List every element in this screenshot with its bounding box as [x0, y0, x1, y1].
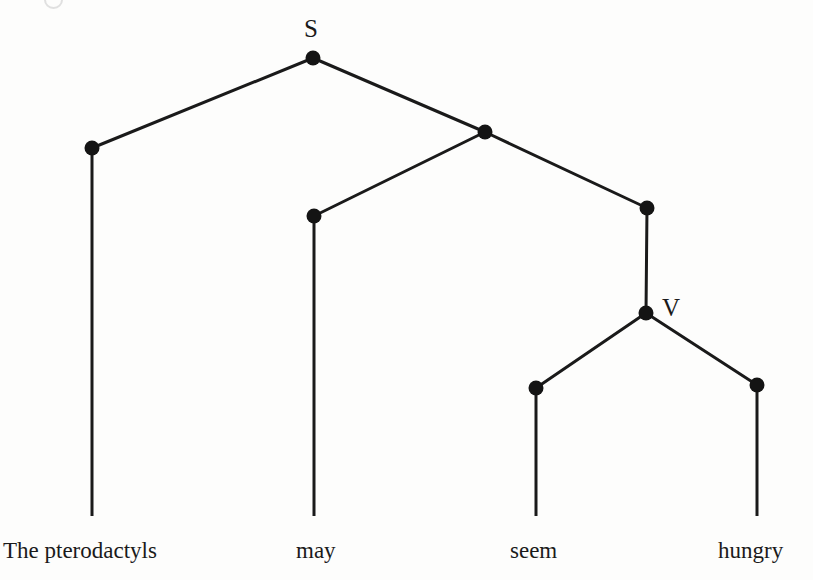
edge-vp-to-verb: [646, 208, 647, 313]
root-node-s[interactable]: [306, 51, 321, 66]
edges-layer: [92, 58, 757, 388]
edge-root-to-subject: [92, 58, 313, 148]
leaf-word-hungry: hungry: [718, 539, 783, 562]
verb-node-v[interactable]: [639, 306, 654, 321]
edge-verb-to-hungry: [646, 313, 757, 385]
node-label-v: V: [662, 295, 680, 320]
node-label-s: S: [304, 16, 318, 41]
nodes-layer: [85, 51, 765, 396]
predicate-node[interactable]: [478, 125, 493, 140]
leaf-word-may: may: [296, 539, 336, 562]
edge-root-to-predicate: [313, 58, 485, 132]
hungry-node[interactable]: [750, 378, 765, 393]
auxiliary-node[interactable]: [307, 209, 322, 224]
tree-graphics: [0, 0, 813, 580]
syntax-tree-diagram: SV The pterodactylsmayseemhungry: [0, 0, 813, 580]
stems-layer: [92, 148, 757, 516]
seem-node[interactable]: [529, 381, 544, 396]
edge-verb-to-seem: [536, 313, 646, 388]
subject-node[interactable]: [85, 141, 100, 156]
edge-predicate-to-vp: [485, 132, 647, 208]
edge-predicate-to-aux: [314, 132, 485, 216]
leaf-word-seem: seem: [510, 539, 557, 562]
leaf-word-the-pterodactyls: The pterodactyls: [3, 539, 157, 562]
verb-phrase-node[interactable]: [640, 201, 655, 216]
